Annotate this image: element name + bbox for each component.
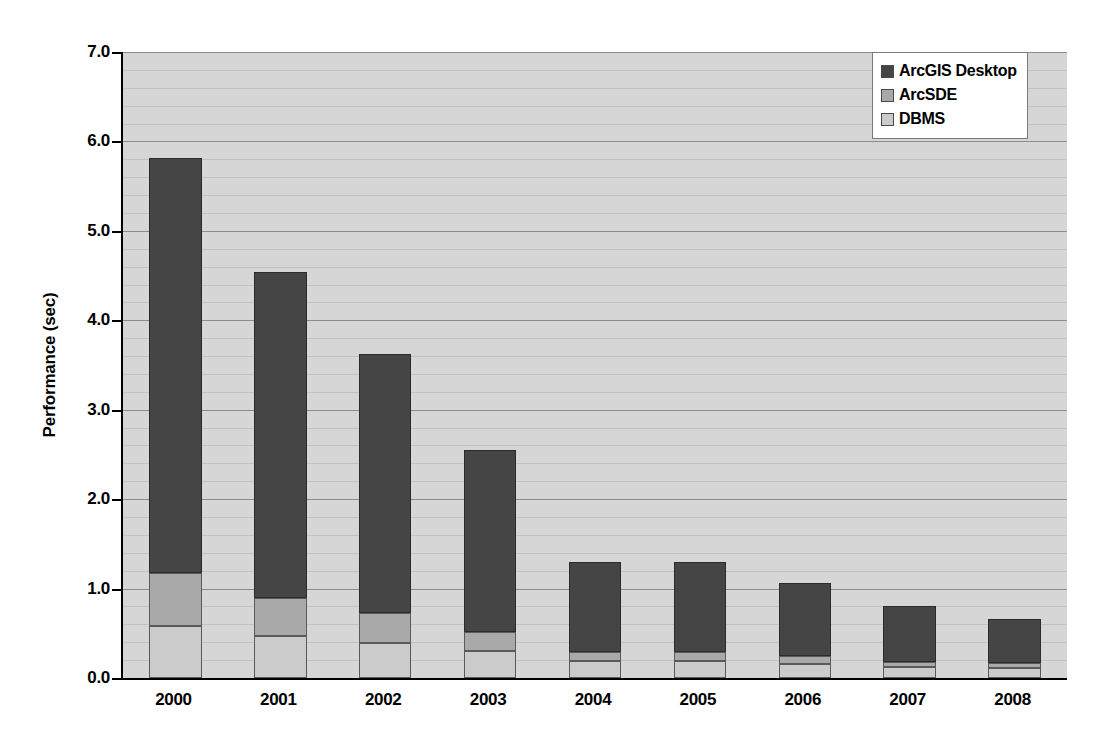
bar-segment-dbms[interactable] xyxy=(674,661,726,678)
bar-segment-dbms[interactable] xyxy=(569,661,621,678)
bar-segment-arcgis-desktop[interactable] xyxy=(779,583,831,655)
bar-segment-dbms[interactable] xyxy=(254,636,306,678)
y-tick-mark xyxy=(112,678,121,680)
legend-item[interactable]: ArcSDE xyxy=(881,83,1017,107)
chart-container: Performance (sec) 0.01.02.03.04.05.06.07… xyxy=(0,0,1110,756)
bar-segment-arcgis-desktop[interactable] xyxy=(149,158,201,573)
bar-group[interactable] xyxy=(464,450,516,678)
y-tick-label: 3.0 xyxy=(62,400,110,420)
x-tick-label: 2006 xyxy=(784,690,821,710)
x-axis-tick-labels: 200020012002200320042005200620072008 xyxy=(121,690,1065,720)
bar-group[interactable] xyxy=(149,158,201,678)
y-tick-label: 6.0 xyxy=(62,131,110,151)
x-tick-label: 2001 xyxy=(260,690,297,710)
x-tick-label: 2005 xyxy=(680,690,717,710)
legend-label: ArcSDE xyxy=(899,86,957,104)
y-tick-mark xyxy=(112,320,121,322)
x-tick-label: 2000 xyxy=(155,690,192,710)
bar-segment-arcgis-desktop[interactable] xyxy=(464,450,516,632)
y-tick-mark xyxy=(112,231,121,233)
bar-group[interactable] xyxy=(779,583,831,678)
bar-segment-arcgis-desktop[interactable] xyxy=(569,562,621,652)
x-tick-label: 2007 xyxy=(889,690,926,710)
bar-segment-arcsde[interactable] xyxy=(359,613,411,643)
bar-segment-arcgis-desktop[interactable] xyxy=(883,606,935,662)
bar-segment-dbms[interactable] xyxy=(883,667,935,678)
legend-label: DBMS xyxy=(899,110,945,128)
y-tick-mark xyxy=(112,52,121,54)
y-tick-label: 2.0 xyxy=(62,489,110,509)
y-tick-mark xyxy=(112,141,121,143)
bar-segment-arcgis-desktop[interactable] xyxy=(988,619,1040,663)
bars-layer xyxy=(123,52,1067,678)
bar-group[interactable] xyxy=(359,354,411,678)
bar-segment-arcsde[interactable] xyxy=(464,632,516,652)
bar-segment-arcsde[interactable] xyxy=(149,573,201,626)
x-tick-label: 2004 xyxy=(575,690,612,710)
plot-area xyxy=(121,52,1067,680)
y-tick-label: 5.0 xyxy=(62,221,110,241)
legend-swatch-icon xyxy=(881,65,894,78)
y-tick-label: 4.0 xyxy=(62,310,110,330)
x-tick-label: 2002 xyxy=(365,690,402,710)
bar-segment-arcsde[interactable] xyxy=(254,598,306,636)
chart-legend: ArcGIS DesktopArcSDEDBMS xyxy=(872,52,1028,139)
bar-segment-arcgis-desktop[interactable] xyxy=(359,354,411,612)
bar-segment-arcgis-desktop[interactable] xyxy=(254,272,306,598)
legend-item[interactable]: DBMS xyxy=(881,107,1017,131)
legend-item[interactable]: ArcGIS Desktop xyxy=(881,59,1017,83)
gridline-major xyxy=(123,678,1067,679)
bar-segment-arcsde[interactable] xyxy=(674,652,726,661)
bar-group[interactable] xyxy=(569,562,621,678)
y-axis-title: Performance (sec) xyxy=(40,255,60,475)
y-tick-label: 1.0 xyxy=(62,579,110,599)
bar-segment-arcsde[interactable] xyxy=(988,663,1040,668)
y-tick-label: 0.0 xyxy=(62,668,110,688)
y-tick-mark xyxy=(112,410,121,412)
x-tick-label: 2003 xyxy=(470,690,507,710)
y-axis-tick-labels: 0.01.02.03.04.05.06.07.0 xyxy=(62,52,110,678)
bar-segment-dbms[interactable] xyxy=(779,664,831,678)
bar-segment-arcsde[interactable] xyxy=(779,656,831,664)
bar-group[interactable] xyxy=(254,272,306,678)
legend-swatch-icon xyxy=(881,113,894,126)
y-tick-label: 7.0 xyxy=(62,42,110,62)
legend-label: ArcGIS Desktop xyxy=(899,62,1017,80)
y-tick-mark xyxy=(112,499,121,501)
bar-group[interactable] xyxy=(674,562,726,678)
x-tick-label: 2008 xyxy=(994,690,1031,710)
bar-segment-dbms[interactable] xyxy=(359,643,411,678)
bar-group[interactable] xyxy=(883,606,935,678)
legend-swatch-icon xyxy=(881,89,894,102)
bar-segment-arcsde[interactable] xyxy=(569,652,621,661)
y-tick-mark xyxy=(112,589,121,591)
bar-segment-dbms[interactable] xyxy=(149,626,201,678)
bar-group[interactable] xyxy=(988,619,1040,678)
bar-segment-dbms[interactable] xyxy=(464,651,516,678)
bar-segment-arcgis-desktop[interactable] xyxy=(674,562,726,652)
bar-segment-arcsde[interactable] xyxy=(883,662,935,667)
bar-segment-dbms[interactable] xyxy=(988,668,1040,678)
